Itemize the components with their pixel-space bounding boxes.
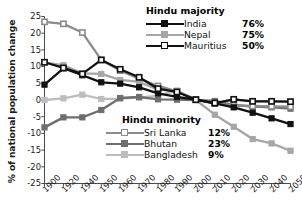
legend-item-label: India <box>184 18 240 29</box>
x-tick-label: 1960 <box>117 172 138 193</box>
x-tick-label: 1980 <box>155 172 176 193</box>
legend-swatch-icon <box>106 138 144 149</box>
legend-hindu-minority: Hindu minority Sri Lanka12%Bhutan23%Bang… <box>106 114 230 160</box>
x-tick-label: 2030 <box>249 172 270 193</box>
x-tick-label: 2010 <box>211 172 232 193</box>
legend-item-mauritius[interactable]: Mauritius50% <box>146 40 264 51</box>
x-tick-label: 1970 <box>136 172 157 193</box>
legend-item-value: 75% <box>242 29 264 40</box>
x-tick-label: 1990 <box>173 172 194 193</box>
x-tick-label: 2020 <box>230 172 251 193</box>
legend-item-label: Bhutan <box>144 138 206 149</box>
legend-item-value: 50% <box>242 40 264 51</box>
legend-item-value: 9% <box>208 149 224 160</box>
legend-majority-title: Hindu majority <box>146 5 264 16</box>
legend-minority-title: Hindu minority <box>106 114 230 125</box>
legend-item-bhutan[interactable]: Bhutan23% <box>106 138 230 149</box>
x-tick-label: 2000 <box>192 172 213 193</box>
legend-item-value: 23% <box>208 138 230 149</box>
legend-swatch-icon <box>146 18 184 29</box>
x-tick-label: 1900 <box>41 172 62 193</box>
x-tick-label: 2040 <box>268 172 289 193</box>
legend-item-nepal[interactable]: Nepal75% <box>146 29 264 40</box>
legend-item-label: Bangladesh <box>144 149 206 160</box>
legend-item-label: Mauritius <box>184 40 240 51</box>
legend-item-value: 76% <box>242 18 264 29</box>
legend-hindu-majority: Hindu majority India76%Nepal75%Mauritius… <box>146 5 264 51</box>
legend-swatch-icon <box>146 40 184 51</box>
x-tick-label: 1950 <box>98 172 119 193</box>
x-tick-label: 1920 <box>60 172 81 193</box>
legend-item-bangladesh[interactable]: Bangladesh9% <box>106 149 230 160</box>
legend-item-label: Sri Lanka <box>144 127 206 138</box>
x-tick-label: 1940 <box>79 172 100 193</box>
legend-item-india[interactable]: India76% <box>146 18 264 29</box>
legend-item-sri-lanka[interactable]: Sri Lanka12% <box>106 127 230 138</box>
legend-swatch-icon <box>146 29 184 40</box>
chart-container: % of national population change 25201510… <box>0 0 302 215</box>
legend-swatch-icon <box>106 127 144 138</box>
x-tick-label: 2050 <box>287 172 302 193</box>
legend-item-label: Nepal <box>184 29 240 40</box>
legend-item-value: 12% <box>208 127 230 138</box>
legend-swatch-icon <box>106 149 144 160</box>
